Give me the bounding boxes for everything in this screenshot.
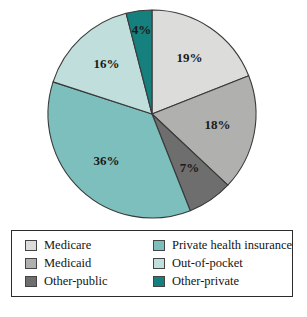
- legend-color-swatch: [153, 276, 165, 287]
- pie-chart-svg: 19%18%7%36%16%4%: [0, 0, 307, 228]
- legend-item-label: Medicaid: [44, 257, 91, 270]
- legend-color-swatch: [153, 240, 165, 251]
- pie-chart-figure: 19%18%7%36%16%4% MedicarePrivate health …: [0, 0, 307, 317]
- pie-chart-plot-area: 19%18%7%36%16%4%: [0, 0, 307, 228]
- chart-legend: MedicarePrivate health insuranceMedicaid…: [11, 230, 293, 297]
- legend-item[interactable]: Other-private: [153, 273, 307, 291]
- legend-item[interactable]: Private health insurance: [153, 237, 307, 255]
- pie-slice-value-label: 36%: [93, 153, 119, 168]
- legend-item-label: Other-private: [172, 275, 239, 288]
- legend-item-label: Out-of-pocket: [172, 257, 243, 270]
- pie-slice-value-label: 16%: [93, 56, 119, 71]
- legend-grid: MedicarePrivate health insuranceMedicaid…: [12, 237, 292, 290]
- pie-slice-value-label: 7%: [180, 160, 200, 175]
- pie-slice-value-label: 18%: [204, 117, 230, 132]
- legend-color-swatch: [25, 276, 37, 287]
- legend-item[interactable]: Other-public: [25, 273, 153, 291]
- pie-slice-value-label: 19%: [176, 50, 202, 65]
- pie-slice-group: [48, 10, 256, 218]
- legend-color-swatch: [25, 240, 37, 251]
- legend-item[interactable]: Medicaid: [25, 255, 153, 273]
- legend-item-label: Other-public: [44, 275, 108, 288]
- legend-item[interactable]: Medicare: [25, 237, 153, 255]
- legend-color-swatch: [25, 258, 37, 269]
- legend-item-label: Medicare: [44, 239, 91, 252]
- legend-color-swatch: [153, 258, 165, 269]
- pie-slice-value-label: 4%: [132, 22, 152, 37]
- legend-item[interactable]: Out-of-pocket: [153, 255, 307, 273]
- legend-item-label: Private health insurance: [172, 239, 292, 252]
